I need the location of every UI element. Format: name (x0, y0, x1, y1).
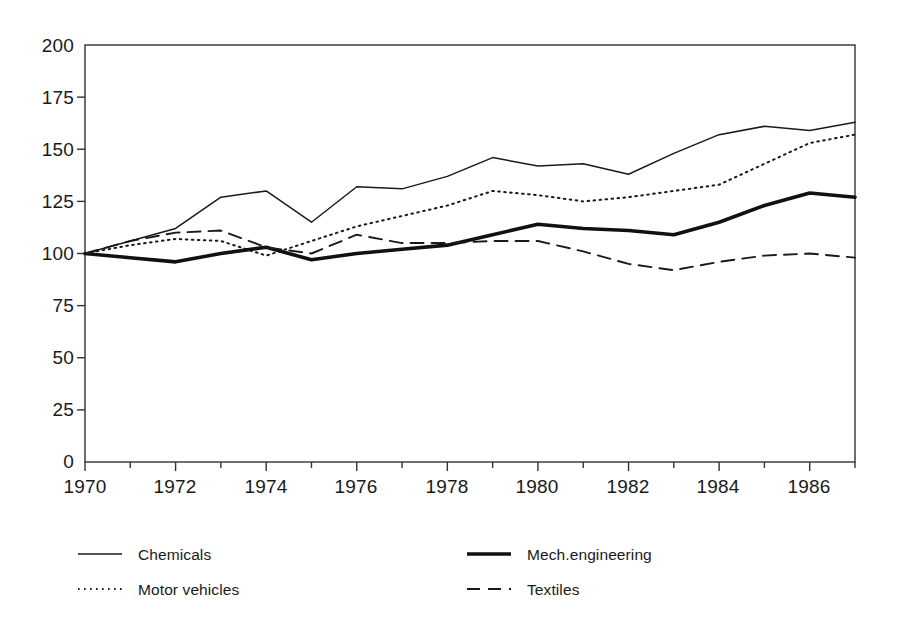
xtick-label-1978: 1978 (412, 476, 482, 498)
legend-label-textiles: Textiles (527, 581, 579, 599)
legend-label-mech-engineering: Mech.engineering (527, 546, 652, 564)
legend-label-chemicals: Chemicals (138, 546, 211, 564)
plot-frame (85, 45, 855, 462)
xtick-label-1974: 1974 (231, 476, 301, 498)
chart-figure: 200 175 150 125 100 75 50 25 0 1970 1972… (0, 0, 900, 628)
ytick-label-25: 25 (14, 399, 74, 421)
ytick-label-0: 0 (14, 451, 74, 473)
xtick-label-1984: 1984 (683, 476, 753, 498)
series-line-textiles (85, 231, 855, 271)
legend-label-motor-vehicles: Motor vehicles (138, 581, 239, 599)
ytick-label-50: 50 (14, 347, 74, 369)
series-line-chemicals (85, 122, 855, 253)
ytick-label-125: 125 (14, 191, 74, 213)
xtick-label-1976: 1976 (321, 476, 391, 498)
series-line-motor-vehicles (85, 135, 855, 256)
xtick-label-1972: 1972 (140, 476, 210, 498)
plot-area (0, 0, 900, 628)
ytick-label-175: 175 (14, 87, 74, 109)
ytick-label-75: 75 (14, 295, 74, 317)
ytick-label-150: 150 (14, 139, 74, 161)
xtick-label-1980: 1980 (502, 476, 572, 498)
series-line-mech-engineering (85, 193, 855, 262)
xtick-label-1982: 1982 (593, 476, 663, 498)
xtick-label-1970: 1970 (50, 476, 120, 498)
ytick-label-200: 200 (14, 35, 74, 57)
ytick-label-100: 100 (14, 243, 74, 265)
xtick-label-1986: 1986 (774, 476, 844, 498)
